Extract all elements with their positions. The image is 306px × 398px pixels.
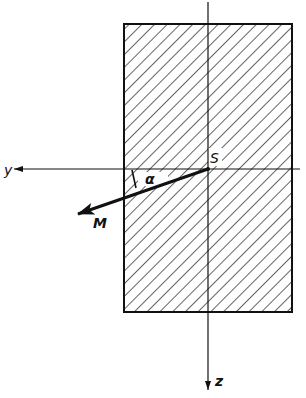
centroid-point: [206, 167, 210, 171]
cross-section-diagram: y z S M α: [0, 0, 306, 398]
y-axis-label: y: [3, 162, 13, 178]
centroid-label: S: [210, 150, 219, 166]
z-axis-label: z: [214, 373, 224, 389]
diagram-canvas: y z S M α: [0, 0, 306, 398]
angle-label: α: [145, 171, 155, 187]
moment-label: M: [93, 215, 107, 231]
